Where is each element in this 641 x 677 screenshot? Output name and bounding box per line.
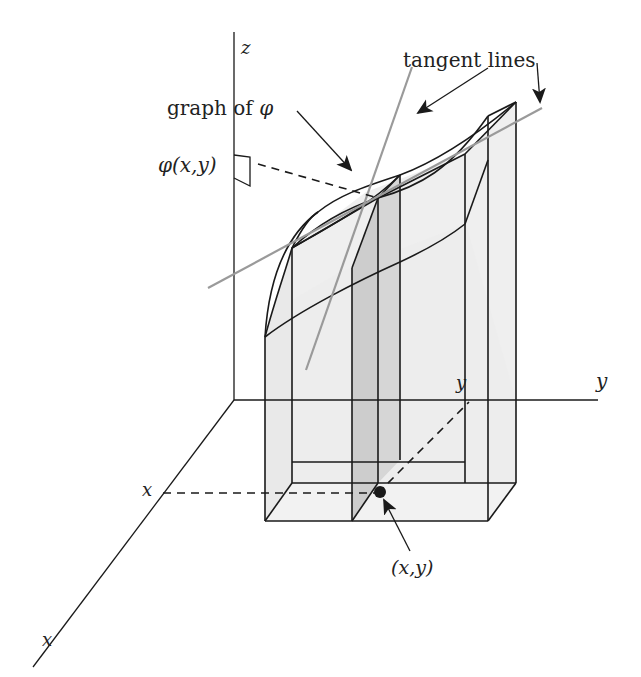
x-axis-label: x — [42, 629, 52, 650]
x-tick-label: x — [142, 479, 152, 500]
right-angle-marker — [234, 155, 250, 186]
tangent-label-arrow-left — [418, 68, 488, 113]
y-axis-label: y — [595, 369, 608, 393]
graph-label-arrow — [297, 111, 351, 170]
y-slice-plane-back-fill — [378, 175, 400, 483]
phi-of-xy-label: φ(x,y) — [158, 153, 217, 177]
diagram-canvas: z y x — [0, 0, 641, 677]
z-axis-label: z — [240, 37, 251, 58]
phi-height-projection — [258, 164, 378, 198]
point-xy-label: (x,y) — [391, 556, 433, 578]
point-xy — [374, 486, 386, 498]
graph-of-phi-label: graph of φ — [167, 96, 273, 120]
floor-fill — [265, 483, 516, 521]
y-tick-label: y — [455, 372, 467, 393]
x-axis — [33, 400, 234, 667]
tangent-label-leader-left — [412, 69, 427, 100]
tangent-label-arrow-right — [537, 63, 540, 102]
tangent-lines-label: tangent lines — [403, 48, 536, 72]
